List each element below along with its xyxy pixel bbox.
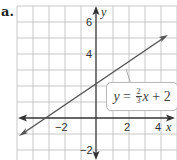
y-tick-4: 4 xyxy=(86,48,92,60)
eq-numerator: 2 xyxy=(137,88,141,96)
equation-callout: y = 2 3 x + 2 xyxy=(106,82,177,111)
y-tick-neg2: −2 xyxy=(80,144,93,156)
y-axis-label: y xyxy=(100,5,107,19)
equation-text: y = 2 3 x + 2 xyxy=(107,83,177,110)
eq-denominator: 3 xyxy=(137,97,141,105)
eq-lhs: y xyxy=(113,89,119,105)
eq-fraction: 2 3 xyxy=(136,88,142,105)
eq-plus: + xyxy=(152,89,160,105)
eq-variable: x xyxy=(143,89,149,105)
x-axis-label: x xyxy=(165,120,172,134)
eq-constant: 2 xyxy=(164,89,171,105)
line-arrow-lower-icon xyxy=(19,128,28,136)
eq-equals: = xyxy=(123,89,131,105)
y-tick-6: 6 xyxy=(86,16,92,28)
coordinate-plane: y x −2 2 4 6 4 −2 xyxy=(0,0,177,160)
x-tick-2: 2 xyxy=(124,121,130,133)
x-tick-4: 4 xyxy=(155,121,161,133)
x-tick-neg2: −2 xyxy=(55,121,68,133)
